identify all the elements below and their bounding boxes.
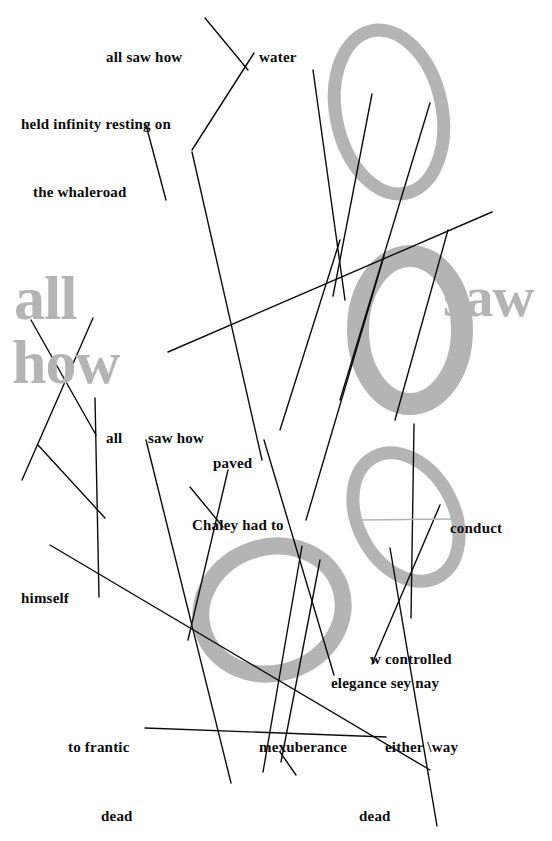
ink-stroke-s06: [192, 152, 262, 460]
ink-stroke-s21: [145, 728, 386, 737]
ink-stroke-s14: [38, 445, 105, 518]
ring-middle: [332, 434, 481, 599]
big-how: how: [12, 331, 119, 393]
ink-stroke-s26: [280, 752, 296, 775]
label-held-infinity: held infinity resting on: [21, 117, 171, 132]
label-the-whaleroad: the whaleroad: [33, 185, 127, 200]
label-w-controlled: w controlled: [370, 652, 452, 667]
label-water: water: [259, 50, 297, 65]
label-all-saw-how-top: all saw how: [106, 50, 182, 65]
ring-top: [320, 20, 458, 204]
big-all: all: [14, 267, 76, 329]
ink-stroke-s01: [205, 18, 248, 70]
label-himself: himself: [21, 591, 69, 606]
ink-stroke-s02: [192, 53, 254, 150]
label-saw-how-mid: saw how: [148, 431, 204, 446]
ink-stroke-s28: [362, 519, 452, 520]
label-dead-left: dead: [101, 809, 133, 824]
label-all-mid: all: [106, 431, 122, 446]
label-dead-right: dead: [359, 809, 391, 824]
label-chaley-had-to: Chaley had to: [192, 518, 284, 533]
big-saw: saw: [443, 268, 533, 326]
rings-layer: [184, 20, 480, 692]
strokes-layer: [22, 18, 492, 826]
poem-page: allhowsaw all saw howwaterheld infinity …: [0, 0, 552, 841]
ink-stroke-s09: [280, 240, 340, 430]
label-elegance-sey-nay: elegance sey nay: [331, 676, 439, 691]
label-either-way: either \way: [385, 740, 458, 755]
ring-bottom: [184, 528, 360, 692]
ink-stroke-s15: [95, 398, 99, 597]
page-edge-marks: | | | 32 | | |: [0, 644, 1, 742]
label-mexuberance: mexuberance: [259, 740, 347, 755]
ink-stroke-s16: [146, 440, 231, 783]
label-conduct: conduct: [450, 521, 502, 536]
label-paved: paved: [213, 456, 252, 471]
label-to-frantic: to frantic: [68, 740, 130, 755]
ink-stroke-s07: [146, 125, 166, 200]
